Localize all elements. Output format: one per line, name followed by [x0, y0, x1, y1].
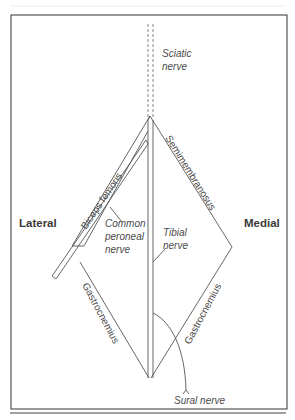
sciatic-nerve [148, 24, 153, 117]
tibial-nerve-label-2: nerve [163, 240, 188, 251]
semimembranosus-label: Semimembranosus [163, 133, 218, 212]
diagram-frame [11, 15, 287, 409]
gastrocnemius-medial-label: Gastrocnemius [182, 281, 223, 346]
common-peroneal-label-3: nerve [105, 244, 130, 255]
sural-nerve-label: Sural nerve [174, 395, 226, 406]
common-peroneal-label-2: peroneal [104, 231, 145, 242]
sciatic-nerve-label-1: Sciatic [162, 48, 191, 59]
popliteal-fossa-diagram: Sciatic nerve Lateral Medial Biceps femo… [0, 0, 295, 420]
common-peroneal-label-1: Common [105, 218, 146, 229]
gastrocnemius-lateral-label: Gastrocnemius [80, 281, 121, 346]
medial-label: Medial [244, 217, 280, 229]
gastrocnemius-medial-muscle [151, 247, 232, 378]
gastrocnemius-lateral-muscle [80, 262, 149, 378]
tibial-nerve-label-1: Tibial [163, 227, 188, 238]
lateral-label: Lateral [19, 217, 57, 229]
sciatic-nerve-label-2: nerve [162, 61, 187, 72]
tibial-nerve [148, 120, 153, 378]
